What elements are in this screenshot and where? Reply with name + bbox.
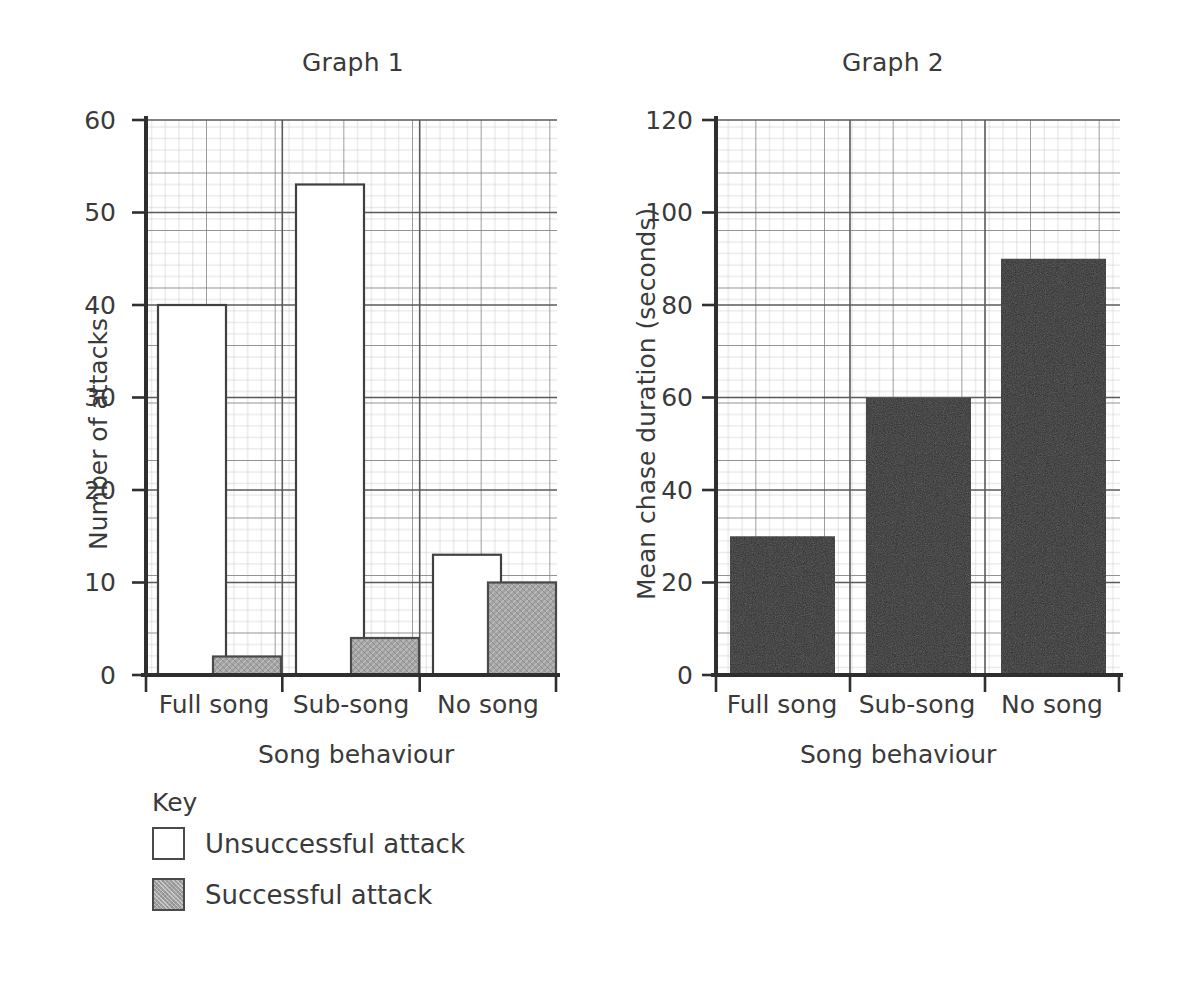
legend: Key Unsuccessful attack Successful attac…	[152, 790, 465, 929]
legend-label-successful: Successful attack	[205, 882, 432, 908]
graph2-x-axis-label: Song behaviour	[800, 740, 996, 769]
graph2-ytick-120: 120	[613, 106, 693, 135]
figure-page: Graph 1	[0, 0, 1180, 988]
graph2-bar-no-song	[1001, 259, 1106, 675]
graph2-bar-full-song	[730, 536, 835, 675]
legend-heading: Key	[152, 790, 465, 815]
legend-item-unsuccessful-attack: Unsuccessful attack	[152, 827, 465, 860]
graph2-xtick-full-song: Full song	[713, 690, 851, 719]
legend-swatch-successful-icon	[152, 878, 185, 911]
legend-item-successful-attack: Successful attack	[152, 878, 465, 911]
graph2-bar-sub-song	[866, 398, 971, 676]
graph2-y-axis-label: Mean chase duration (seconds)	[632, 208, 661, 600]
legend-label-unsuccessful: Unsuccessful attack	[205, 831, 465, 857]
legend-swatch-unsuccessful-icon	[152, 827, 185, 860]
graph2-xtick-sub-song: Sub-song	[848, 690, 986, 719]
graph2-xtick-no-song: No song	[983, 690, 1121, 719]
graph2-ytick-0: 0	[613, 661, 693, 690]
